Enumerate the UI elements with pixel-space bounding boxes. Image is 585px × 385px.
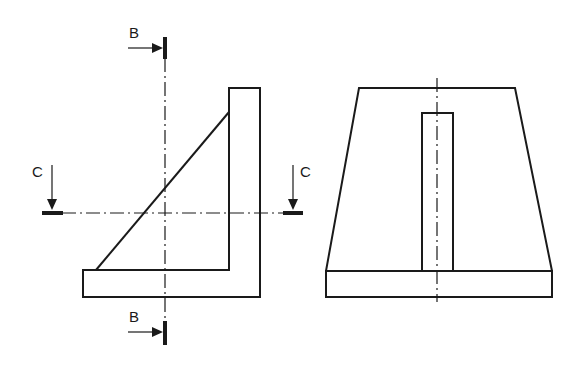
trapezoid-body xyxy=(326,88,552,271)
section-b-top-arrow-icon xyxy=(152,43,163,53)
technical-drawing: B B C C xyxy=(0,0,585,385)
gusset-diagonal xyxy=(96,112,229,270)
section-b-bottom-label: B xyxy=(129,308,139,325)
section-line-c: C C xyxy=(32,163,311,213)
section-b-top-label: B xyxy=(129,24,139,41)
section-c-left-arrow-icon xyxy=(47,199,57,210)
base-plate xyxy=(326,271,552,297)
front-view xyxy=(326,78,552,302)
section-c-left-label: C xyxy=(32,163,43,180)
section-c-right-label: C xyxy=(300,163,311,180)
section-b-bottom-arrow-icon xyxy=(152,327,163,337)
section-c-right-arrow-icon xyxy=(288,199,298,210)
side-view xyxy=(83,88,260,297)
l-bracket-outline xyxy=(83,88,260,297)
